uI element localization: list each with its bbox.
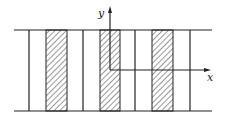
y-arrow-icon: [108, 6, 112, 13]
layered-strip-diagram: y x: [0, 0, 226, 121]
x-axis-label: x: [207, 71, 214, 84]
y-axis-label: y: [97, 7, 105, 20]
